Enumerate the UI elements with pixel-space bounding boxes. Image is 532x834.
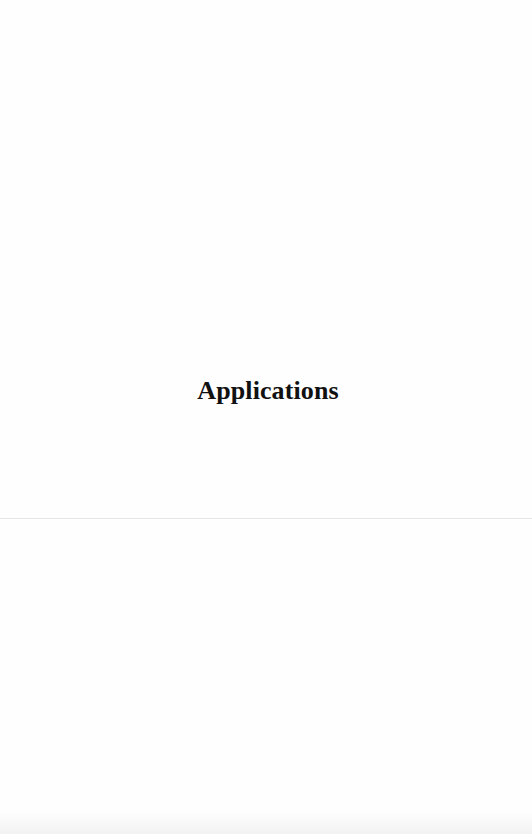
scan-edge-shadow (0, 812, 532, 834)
section-title: Applications (0, 376, 532, 406)
page-fold-divider (0, 518, 532, 519)
document-page: Applications (0, 0, 532, 834)
